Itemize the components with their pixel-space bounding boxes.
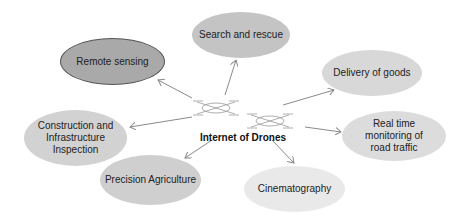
- node-label: Construction and Infrastructure Inspecti…: [24, 120, 127, 156]
- drone-icon: [193, 101, 293, 128]
- node-label: Precision Agriculture: [105, 174, 196, 186]
- node-label: Remote sensing: [76, 56, 148, 68]
- node-label: Search and rescue: [199, 29, 283, 41]
- node-label: Real time monitoring of road traffic: [342, 118, 446, 154]
- iod-diagram: Remote sensing Search and rescue Deliver…: [0, 0, 465, 217]
- node-construction-inspection: Construction and Infrastructure Inspecti…: [24, 110, 127, 166]
- center-label: Internet of Drones: [188, 132, 298, 143]
- node-road-traffic-monitoring: Real time monitoring of road traffic: [342, 111, 446, 161]
- node-remote-sensing: Remote sensing: [60, 38, 165, 85]
- node-label: Delivery of goods: [333, 67, 410, 79]
- node-precision-agriculture: Precision Agriculture: [100, 155, 201, 205]
- node-delivery-of-goods: Delivery of goods: [322, 50, 422, 96]
- node-search-and-rescue: Search and rescue: [192, 12, 290, 58]
- node-cinematography: Cinematography: [244, 166, 345, 212]
- node-label: Cinematography: [258, 183, 331, 195]
